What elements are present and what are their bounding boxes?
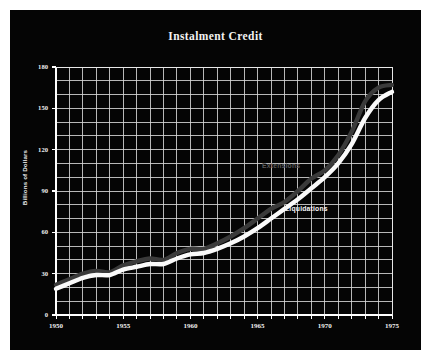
data-series-layer [56, 85, 392, 289]
plot-area [0, 0, 431, 360]
series-label-liquidations: Liquidations [285, 205, 328, 212]
y-tick-60: 60 [22, 228, 48, 235]
x-tick-1955: 1955 [103, 322, 143, 330]
y-tick-120: 120 [22, 146, 48, 153]
series-line-extensions [56, 85, 392, 285]
x-tick-1960: 1960 [170, 322, 210, 330]
gridlines [56, 67, 392, 315]
y-tick-150: 150 [22, 104, 48, 111]
x-tick-1970: 1970 [305, 322, 345, 330]
y-tick-90: 90 [22, 187, 48, 194]
series-line-liquidations [56, 92, 392, 289]
y-tick-0: 0 [22, 311, 48, 318]
chart-figure: Instalment Credit Billions of Dollars 03… [0, 0, 431, 360]
x-tick-1965: 1965 [238, 322, 278, 330]
x-tick-1975: 1975 [372, 322, 412, 330]
y-tick-30: 30 [22, 270, 48, 277]
y-tick-180: 180 [22, 63, 48, 70]
series-label-extensions: Extensions [262, 162, 300, 169]
axis-tickmarks [52, 67, 392, 319]
x-tick-1950: 1950 [36, 322, 76, 330]
